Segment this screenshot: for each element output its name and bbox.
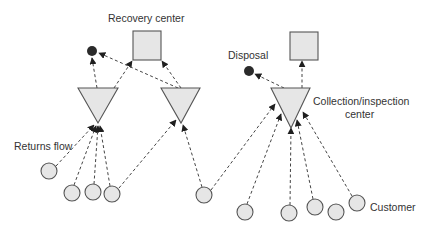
edge-c10-t3 [303, 112, 352, 196]
customer-node-1 [41, 163, 57, 179]
edge-t2-r1 [162, 61, 181, 88]
customer-label: Customer [370, 201, 416, 213]
edge-c7-t3 [290, 128, 291, 205]
collection-center-node-1 [78, 88, 118, 123]
edge-t3-d2 [255, 74, 284, 88]
customer-node-6 [237, 204, 253, 220]
recovery-center-node-2 [290, 32, 318, 60]
customer-node-9 [328, 204, 344, 220]
edge-c5-t3 [211, 104, 275, 190]
collection-centers [78, 88, 310, 128]
edge-c8-t3 [297, 120, 313, 199]
edges [56, 53, 352, 205]
edge-c3-t1 [94, 126, 98, 184]
customer-node-3 [85, 184, 101, 200]
recovery-centers [133, 31, 318, 60]
collection-center-label-line2: center [345, 108, 375, 120]
customer-node-8 [307, 199, 323, 215]
customers [41, 163, 365, 221]
collection-center-node-3 [271, 88, 310, 128]
edge-c4-t1 [100, 126, 110, 186]
edge-c2-t1 [74, 126, 96, 185]
returns-flow-label: Returns flow [14, 140, 73, 152]
collection-center-label-line1: Collection/inspection [313, 95, 409, 107]
customer-node-4 [104, 186, 120, 202]
edge-c6-t3 [247, 114, 281, 204]
disposal-dot-1 [87, 46, 97, 56]
edge-t1-d1 [92, 58, 97, 88]
disposal-dot-2 [244, 66, 254, 76]
edge-c4-t2 [119, 120, 176, 188]
edge-t1-r1 [114, 61, 132, 88]
collection-center-node-2 [161, 88, 200, 123]
recovery-center-label: Recovery center [108, 12, 185, 24]
disposal-label: Disposal [228, 49, 268, 61]
customer-node-2 [64, 185, 80, 201]
customer-node-5 [196, 187, 212, 203]
customer-node-7 [281, 205, 297, 221]
customer-node-10 [349, 195, 365, 211]
recovery-center-node-1 [133, 31, 161, 60]
reverse-logistics-diagram: Recovery center Disposal Collection/insp… [0, 0, 427, 232]
edge-c5-t2 [183, 125, 202, 187]
